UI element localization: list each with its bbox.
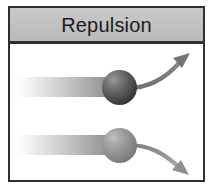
- panel-title: Repulsion: [61, 15, 152, 35]
- deflection-arrow-down: [128, 145, 189, 175]
- deflection-arrow-up: [128, 53, 190, 88]
- particle-sphere-bottom: [102, 128, 137, 163]
- figure-root: Repulsion: [0, 0, 214, 189]
- panel-body: [8, 42, 205, 182]
- repulsion-panel: Repulsion: [8, 6, 205, 182]
- arrow-layer: [10, 44, 203, 180]
- panel-header: Repulsion: [8, 6, 205, 43]
- particle-sphere-top: [102, 70, 137, 105]
